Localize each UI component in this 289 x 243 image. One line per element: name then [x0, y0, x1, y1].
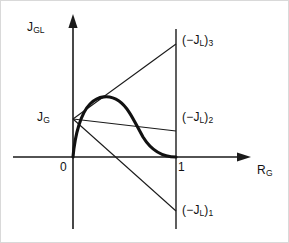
figure-canvas: JGL RG JG 0 1 (−JL)3 (−JL)2 (−JL)1 [0, 0, 289, 243]
load-line-3-label-index: 3 [209, 38, 214, 48]
load-line-1 [73, 119, 176, 211]
load-line-3-label: (−JL)3 [182, 34, 213, 48]
load-line-2-label-main: (−J [182, 110, 200, 124]
unit-tick-label: 1 [178, 161, 185, 173]
x-axis-label-sub: G [266, 168, 273, 178]
jg-label-sub: G [43, 115, 50, 125]
y-axis-label-sub: GL [33, 25, 44, 35]
load-line-3-label-main: (−J [182, 33, 200, 47]
load-line-2-label-index: 2 [209, 115, 214, 125]
load-line-1-label-main: (−J [182, 203, 200, 217]
load-line-2 [73, 119, 176, 131]
y-axis-label: JGL [27, 21, 45, 35]
y-axis-arrow-icon [68, 14, 77, 28]
generation-curve [73, 97, 176, 157]
load-line-2-label: (−JL)2 [182, 111, 213, 125]
x-axis-arrow-icon [237, 152, 251, 161]
origin-tick-label: 0 [60, 161, 67, 173]
x-axis-label-main: R [257, 163, 266, 177]
jg-intercept-label: JG [37, 111, 50, 125]
load-line-1-label-index: 1 [209, 208, 214, 218]
load-line-1-label: (−JL)1 [182, 204, 213, 218]
x-axis-label: RG [257, 164, 273, 178]
